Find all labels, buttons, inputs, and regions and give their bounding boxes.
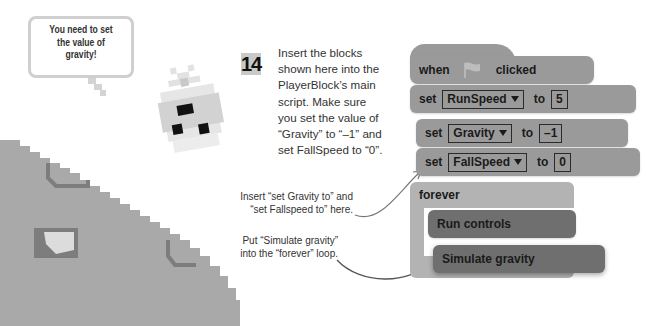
bubble-line: You need to set: [35, 24, 126, 37]
instruction-line: “Gravity” to “–1” and: [278, 126, 398, 142]
dropdown-value: FallSpeed: [453, 154, 510, 171]
instruction-line: PlayerBlock’s main: [278, 77, 398, 93]
custom-block-label: Simulate gravity: [442, 252, 535, 266]
dropdown-arrow-icon: [514, 159, 522, 165]
set-fallspeed-block[interactable]: set FallSpeed to 0: [416, 148, 640, 176]
run-controls-block[interactable]: Run controls: [428, 210, 576, 238]
instruction-line: Insert the blocks: [278, 45, 398, 61]
annotation-line: “set Fallspeed to” here.: [205, 203, 353, 216]
set-runspeed-block[interactable]: set RunSpeed to 5: [410, 85, 636, 113]
variable-dropdown[interactable]: RunSpeed: [442, 90, 523, 109]
annotation-line: Put “Simulate gravity”: [205, 234, 338, 247]
step-number-badge: 14: [241, 53, 261, 75]
value-input[interactable]: 0: [554, 153, 571, 172]
set-gravity-block[interactable]: set Gravity to –1: [416, 119, 628, 147]
block-keyword: to: [534, 92, 545, 106]
annotation-line: into the “forever” loop.: [205, 247, 338, 260]
dropdown-arrow-icon: [499, 130, 507, 136]
green-flag-icon: [462, 61, 484, 79]
annotation-line: Insert “set Gravity to” and: [205, 190, 353, 203]
instruction-line: you set the value of: [278, 110, 398, 126]
value-input[interactable]: –1: [539, 124, 562, 143]
annotation-insert-set-blocks: Insert “set Gravity to” and “set Fallspe…: [205, 190, 353, 216]
block-keyword: set: [419, 92, 436, 106]
value-input[interactable]: 5: [551, 90, 568, 109]
dropdown-arrow-icon: [511, 96, 519, 102]
custom-block-label: Run controls: [437, 217, 511, 231]
block-keyword: when: [419, 63, 450, 77]
instruction-line: shown here into the: [278, 61, 398, 77]
dropdown-value: Gravity: [453, 125, 494, 142]
block-keyword: to: [522, 126, 533, 140]
block-keyword: set: [425, 155, 442, 169]
loop-label: forever: [419, 188, 460, 202]
block-keyword: to: [537, 155, 548, 169]
step-instruction: Insert the blocks shown here into the Pl…: [278, 45, 398, 158]
variable-dropdown[interactable]: FallSpeed: [448, 153, 527, 172]
instruction-line: script. Make sure: [278, 94, 398, 110]
instruction-line: set FallSpeed to “0”.: [278, 142, 398, 158]
dropdown-value: RunSpeed: [447, 91, 506, 108]
speech-bubble-text: You need to set the value of gravity!: [35, 24, 126, 62]
block-keyword: set: [425, 126, 442, 140]
bubble-line: gravity!: [35, 49, 126, 62]
variable-dropdown[interactable]: Gravity: [448, 124, 511, 143]
simulate-gravity-block[interactable]: Simulate gravity: [433, 245, 605, 273]
player-sprite: [152, 61, 228, 154]
block-keyword: clicked: [496, 63, 537, 77]
annotation-simulate-gravity: Put “Simulate gravity” into the “forever…: [205, 234, 338, 260]
when-flag-clicked-block[interactable]: when clicked: [410, 56, 594, 84]
bubble-line: the value of: [35, 37, 126, 50]
